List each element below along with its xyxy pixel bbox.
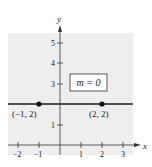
x-tick-label: 3 — [121, 150, 125, 159]
point-marker-b — [99, 101, 104, 106]
y-axis-label: y — [56, 14, 61, 24]
y-tick-label: 5 — [51, 39, 55, 48]
x-axis-arrow-icon — [134, 143, 141, 147]
x-tick-label: 2 — [100, 150, 104, 159]
y-tick-label: 3 — [51, 80, 55, 89]
x-tick-label: 1 — [79, 150, 83, 159]
slope-zero-chart: y x −2 −1 1 2 3 — [0, 0, 152, 167]
slope-label: m = 0 — [77, 77, 101, 88]
point-label-b: (2, 2) — [89, 109, 109, 119]
point-marker-a — [36, 101, 41, 106]
x-axis-label: x — [142, 141, 147, 151]
y-tick-label: 4 — [51, 59, 55, 68]
x-tick-label: −2 — [13, 150, 22, 159]
y-axis-arrow-icon — [58, 25, 62, 32]
y-tick-label: 1 — [51, 121, 55, 130]
plot-background — [8, 33, 133, 155]
slope-annotation: m = 0 — [70, 74, 107, 91]
point-label-a: (−1, 2) — [12, 109, 37, 119]
x-tick-label: −1 — [34, 150, 43, 159]
